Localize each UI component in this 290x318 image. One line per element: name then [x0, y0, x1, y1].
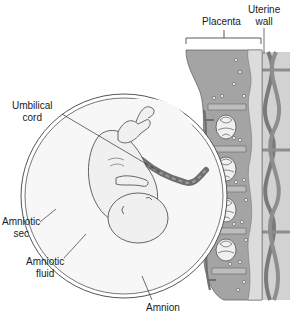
- label-amniotic-fluid-line2: fluid: [26, 268, 64, 280]
- label-amniotic-sac-line1: Amniotic: [2, 216, 40, 228]
- label-umbilical-cord-line1: Umbilical: [12, 100, 53, 112]
- label-umbilical-cord: Umbilical cord: [12, 100, 53, 124]
- label-amniotic-sac-line2: sec: [2, 228, 40, 240]
- label-umbilical-cord-line2: cord: [12, 112, 53, 124]
- label-amniotic-fluid-line1: Amniotic: [26, 256, 64, 268]
- placenta-bracket: [186, 30, 261, 44]
- label-amniotic-sac: Amniotic sec: [2, 216, 40, 240]
- uterine-wall: [262, 52, 290, 300]
- label-uterine-wall-line1: Uterine: [248, 4, 280, 16]
- label-uterine-wall: Uterine wall: [248, 4, 280, 28]
- label-placenta: Placenta: [202, 16, 241, 28]
- label-amnion: Amnion: [146, 302, 180, 314]
- label-amniotic-fluid: Amniotic fluid: [26, 256, 64, 280]
- label-uterine-wall-line2: wall: [248, 16, 280, 28]
